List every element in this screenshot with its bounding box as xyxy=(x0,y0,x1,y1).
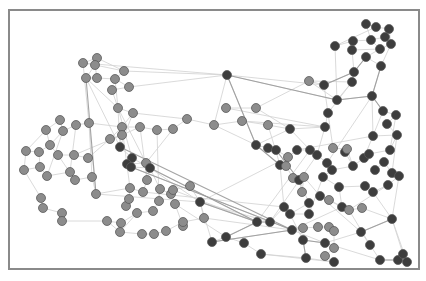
graph-node xyxy=(331,42,340,51)
graph-node xyxy=(88,173,97,182)
graph-node xyxy=(388,215,397,224)
graph-node xyxy=(210,121,219,130)
graph-edge xyxy=(133,113,187,119)
graph-edge xyxy=(335,46,337,100)
graph-node xyxy=(136,123,145,132)
graph-node xyxy=(138,230,147,239)
graph-edge xyxy=(242,121,325,127)
graph-node xyxy=(85,119,94,128)
graph-node xyxy=(264,144,273,153)
graph-node xyxy=(223,71,232,80)
graph-edge xyxy=(74,135,122,155)
graph-node xyxy=(349,162,358,171)
graph-node xyxy=(42,126,51,135)
graph-node xyxy=(361,182,370,191)
graph-node xyxy=(319,173,328,182)
graph-edge xyxy=(361,219,392,232)
graph-node xyxy=(22,147,31,156)
graph-edge xyxy=(290,127,325,129)
graph-node xyxy=(56,116,65,125)
graph-node xyxy=(208,238,217,247)
graph-node xyxy=(183,115,192,124)
graph-edge xyxy=(96,188,130,194)
graph-node xyxy=(196,198,205,207)
graph-node xyxy=(300,173,309,182)
graph-node xyxy=(365,150,374,159)
graph-node xyxy=(253,218,262,227)
graph-node xyxy=(298,188,307,197)
graph-node xyxy=(153,126,162,135)
graph-node xyxy=(39,204,48,213)
graph-node xyxy=(111,75,120,84)
graph-node xyxy=(103,217,112,226)
graph-edge xyxy=(89,123,122,127)
graph-node xyxy=(71,176,80,185)
graph-node xyxy=(299,236,308,245)
graph-node xyxy=(186,182,195,191)
graph-node xyxy=(348,78,357,87)
graph-node xyxy=(369,132,378,141)
graph-node xyxy=(350,68,359,77)
graph-node xyxy=(150,230,159,239)
graph-node xyxy=(362,20,371,29)
graph-node xyxy=(156,185,165,194)
graph-node xyxy=(79,59,88,68)
graph-node xyxy=(171,200,180,209)
graph-node xyxy=(371,166,380,175)
graph-node xyxy=(313,151,322,160)
graph-node xyxy=(403,258,412,267)
graph-edge xyxy=(226,222,257,237)
graph-node xyxy=(302,254,311,263)
graph-edge xyxy=(24,170,41,198)
graph-node xyxy=(293,146,302,155)
graph-node xyxy=(362,53,371,62)
graph-node xyxy=(366,241,375,250)
graph-node xyxy=(84,154,93,163)
graph-node xyxy=(238,117,247,126)
graph-node xyxy=(92,190,101,199)
graph-node xyxy=(384,181,393,190)
graph-edge xyxy=(373,192,392,219)
graph-node xyxy=(325,196,334,205)
graph-node xyxy=(380,158,389,167)
graph-node xyxy=(252,104,261,113)
graph-node xyxy=(333,96,342,105)
graph-node xyxy=(143,176,152,185)
graph-node xyxy=(321,252,330,261)
graph-node xyxy=(399,250,408,259)
graph-node xyxy=(368,92,377,101)
graph-node xyxy=(349,37,358,46)
graph-node xyxy=(66,168,75,177)
graph-node xyxy=(70,151,79,160)
graph-node xyxy=(169,125,178,134)
graph-node xyxy=(358,204,367,213)
graph-node xyxy=(314,223,323,232)
graph-edge xyxy=(372,96,373,136)
graph-node xyxy=(330,244,339,253)
graph-node xyxy=(117,219,126,228)
graph-node xyxy=(72,121,81,130)
graph-node xyxy=(133,209,142,218)
graph-node xyxy=(305,199,314,208)
graph-node xyxy=(43,172,52,181)
graph-node xyxy=(305,77,314,86)
graph-node xyxy=(367,36,376,45)
graph-node xyxy=(118,131,127,140)
graph-node xyxy=(162,227,171,236)
graph-edge xyxy=(337,96,372,100)
graph-node xyxy=(129,109,138,118)
graph-node xyxy=(286,210,295,219)
graph-node xyxy=(329,144,338,153)
graph-node xyxy=(348,46,357,55)
graph-node xyxy=(321,123,330,132)
graph-node xyxy=(328,166,337,175)
graph-node xyxy=(376,256,385,265)
graph-node xyxy=(395,172,404,181)
graph-node xyxy=(108,86,117,95)
graph-node xyxy=(155,197,164,206)
graph-node xyxy=(200,214,209,223)
graph-node xyxy=(257,250,266,259)
graph-node xyxy=(343,145,352,154)
graph-node xyxy=(46,141,55,150)
graph-node xyxy=(240,239,249,248)
